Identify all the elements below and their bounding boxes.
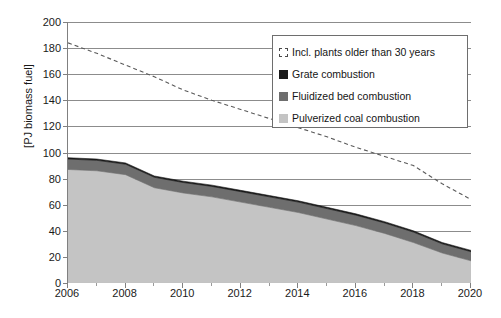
x-tick-mark-minor <box>326 283 327 286</box>
x-tick-label: 2016 <box>327 287 383 299</box>
y-tick-label: 140 <box>1 94 61 106</box>
y-tick-label: 20 <box>1 251 61 263</box>
y-tick-mark <box>63 48 67 49</box>
y-tick-mark <box>63 126 67 127</box>
y-tick-label: 120 <box>1 120 61 132</box>
legend-item: Pulverized coal combustion <box>279 107 461 129</box>
x-tick-label: 2008 <box>97 287 153 299</box>
legend-item: Fluidized bed combustion <box>279 85 461 107</box>
y-tick-mark <box>63 153 67 154</box>
dashed-square-marker-icon <box>279 48 288 57</box>
x-tick-label: 2012 <box>212 287 268 299</box>
y-tick-label: 40 <box>1 225 61 237</box>
chart-legend: Incl. plants older than 30 years Grate c… <box>272 35 468 128</box>
legend-label: Fluidized bed combustion <box>292 90 411 102</box>
x-tick-label: 2006 <box>39 287 95 299</box>
x-tick-mark-minor <box>96 283 97 286</box>
biomass-fuel-area-chart: [PJ biomass fuel] 0204060801001201401601… <box>0 0 501 318</box>
x-tick-mark-minor <box>384 283 385 286</box>
filled-square-marker-icon <box>279 92 288 101</box>
y-tick-mark <box>63 205 67 206</box>
y-tick-label: 60 <box>1 199 61 211</box>
filled-square-marker-icon <box>279 70 288 79</box>
x-tick-mark-minor <box>269 283 270 286</box>
legend-item: Grate combustion <box>279 63 461 85</box>
y-tick-label: 200 <box>1 16 61 28</box>
x-tick-label: 2010 <box>154 287 210 299</box>
x-tick-label: 2020 <box>442 287 498 299</box>
legend-label: Grate combustion <box>292 68 375 80</box>
x-tick-label: 2014 <box>269 287 325 299</box>
area-series <box>68 169 471 283</box>
y-tick-mark <box>63 22 67 23</box>
y-tick-label: 180 <box>1 42 61 54</box>
y-tick-label: 160 <box>1 68 61 80</box>
y-tick-mark <box>63 231 67 232</box>
x-tick-mark-minor <box>211 283 212 286</box>
legend-item: Incl. plants older than 30 years <box>279 41 461 63</box>
x-tick-mark-minor <box>441 283 442 286</box>
y-tick-mark <box>63 257 67 258</box>
y-tick-mark <box>63 100 67 101</box>
filled-square-marker-icon <box>279 114 288 123</box>
y-tick-label: 80 <box>1 173 61 185</box>
legend-label: Incl. plants older than 30 years <box>292 46 435 58</box>
y-tick-mark <box>63 179 67 180</box>
x-tick-label: 2018 <box>384 287 440 299</box>
y-tick-label: 100 <box>1 147 61 159</box>
x-tick-mark-minor <box>153 283 154 286</box>
y-tick-mark <box>63 74 67 75</box>
legend-label: Pulverized coal combustion <box>292 112 420 124</box>
